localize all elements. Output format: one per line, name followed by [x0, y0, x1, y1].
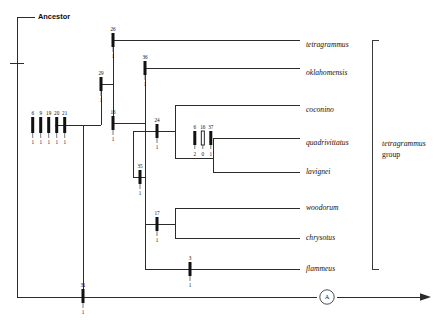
marker-group-node-35: 35 1: [137, 163, 143, 196]
bottom-axis-arrow: [83, 293, 431, 301]
node-a-letter: A: [325, 293, 330, 300]
marker-state: 1: [55, 139, 58, 145]
marker-group-node-26: 26 1: [110, 26, 116, 59]
marker-number: 26: [110, 26, 116, 32]
marker-number: 16: [200, 124, 206, 130]
node-a-marker: A: [320, 290, 334, 304]
marker-group-node-17: 17 1: [154, 210, 160, 243]
cladogram-svg: A: [0, 0, 443, 321]
marker-number: 31: [80, 282, 86, 288]
marker-number: 16: [110, 109, 116, 115]
marker-group-quad-lav-cluster: 6 2 16 0 37 1: [193, 124, 214, 157]
tree-branches: [55, 40, 300, 297]
marker-number: 24: [154, 117, 160, 123]
marker-number: 20: [54, 110, 60, 116]
taxon-label-woodorum: woodorum: [306, 203, 339, 212]
marker-state: 1: [156, 237, 159, 243]
taxon-label-chrysotus: chrysotus: [306, 233, 335, 242]
marker-number: 9: [39, 110, 42, 116]
marker-state: 1: [100, 97, 103, 103]
taxon-label-coconino: coconino: [306, 105, 334, 114]
marker-basal-9: 9 1: [39, 110, 42, 145]
taxon-label-tetragrammus: tetragrammus: [306, 40, 349, 49]
marker-number: 35: [137, 163, 143, 169]
marker-basal-19: 19 1: [46, 110, 52, 145]
marker-quadlav-6: 6 2: [193, 124, 196, 157]
root-backbone: [10, 17, 83, 297]
marker-number: 19: [46, 110, 52, 116]
group-bracket: [372, 40, 379, 269]
marker-group-node-36: 36 1: [142, 54, 148, 87]
taxon-label-lavignei: lavignei: [306, 167, 330, 176]
marker-state: 1: [210, 151, 213, 157]
taxon-label-oklahomensis: oklahomensis: [306, 68, 347, 77]
marker-state: 1: [31, 139, 34, 145]
marker-state: 1: [144, 81, 147, 87]
marker-state: 1: [47, 139, 50, 145]
marker-number: 6: [31, 110, 34, 116]
marker-group-node-16: 16 1: [110, 109, 116, 142]
marker-number: 29: [98, 70, 104, 76]
marker-state: 1: [189, 282, 192, 288]
marker-state: 2: [194, 151, 197, 157]
marker-basal-21: 21 1: [62, 110, 68, 145]
marker-state: 1: [139, 190, 142, 196]
marker-group-node-29: 29 1: [98, 70, 104, 103]
marker-state: 1: [39, 139, 42, 145]
marker-state: 1: [112, 53, 115, 59]
marker-group-basal-cluster: 6 1 9 1 19 1 20 1: [31, 110, 67, 145]
marker-number: 3: [189, 255, 192, 261]
taxon-label-quadrivittatus: quadrivittatus: [306, 138, 349, 147]
marker-number: 21: [62, 110, 68, 116]
marker-state: 0: [202, 151, 205, 157]
taxon-label-flammeus: flammeus: [306, 264, 335, 273]
marker-number: 6: [194, 124, 197, 130]
marker-group-node-31: 31 1: [80, 282, 86, 315]
marker-basal-20: 20 1: [54, 110, 60, 145]
marker-state: 1: [63, 139, 66, 145]
marker-state: 1: [156, 144, 159, 150]
marker-state: 1: [82, 309, 85, 315]
marker-basal-6: 6 1: [31, 110, 34, 145]
marker-quadlav-16: 16 0: [200, 124, 206, 157]
marker-group-node-3: 3 1: [189, 255, 192, 288]
cladogram-figure: A: [0, 0, 443, 321]
marker-group-node-24: 24 1: [154, 117, 160, 150]
marker-number: 36: [142, 54, 148, 60]
group-bracket-label-line1: tetragrammus: [382, 139, 426, 148]
ancestor-leader: [17, 17, 35, 22]
ancestor-label: Ancestor: [38, 12, 70, 21]
group-bracket-label-line2: group: [382, 150, 400, 159]
marker-state: 1: [112, 136, 115, 142]
marker-number: 17: [154, 210, 160, 216]
marker-number: 37: [208, 124, 214, 130]
